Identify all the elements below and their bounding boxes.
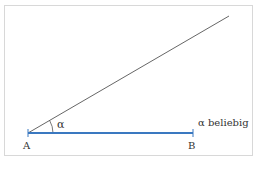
angle-arc	[50, 120, 53, 133]
annotation-label: α beliebig	[198, 117, 249, 128]
construction-diagram: α A B α beliebig	[0, 0, 258, 170]
point-b-label: B	[188, 140, 195, 151]
angle-label: α	[57, 118, 65, 131]
ray-line	[28, 16, 229, 133]
point-a-label: A	[22, 140, 31, 151]
